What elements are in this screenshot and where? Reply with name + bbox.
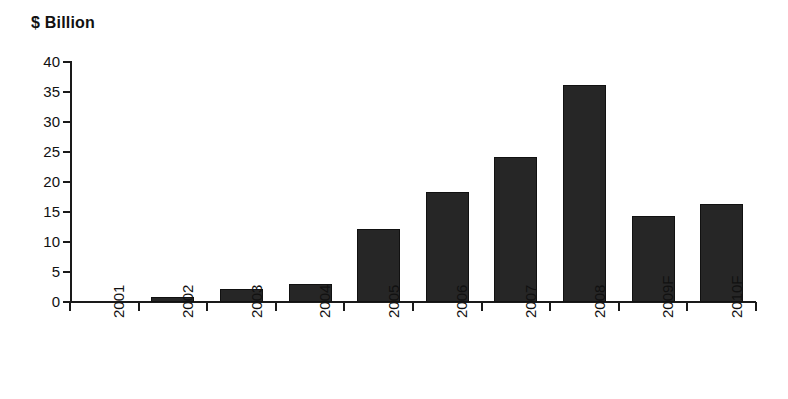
y-axis-tick-label-wrap: 0: [22, 294, 60, 309]
x-axis-tick: [275, 302, 277, 311]
x-axis-tick: [69, 302, 71, 311]
y-axis-tick-label-wrap: 5: [22, 264, 60, 279]
y-axis-tick-label: 5: [26, 264, 60, 279]
y-axis-tick: [63, 241, 71, 243]
bar: [494, 157, 537, 302]
x-axis-label: 2004: [317, 285, 332, 318]
x-axis-label: 2009F: [660, 275, 675, 318]
y-axis-tick: [63, 91, 71, 93]
y-axis-tick: [63, 61, 71, 63]
y-axis-tick-label-wrap: 30: [22, 114, 60, 129]
y-axis-tick-label: 35: [26, 84, 60, 99]
x-axis-tick: [481, 302, 483, 311]
y-axis-tick-label: 30: [26, 114, 60, 129]
y-axis-tick: [63, 121, 71, 123]
y-axis-tick: [63, 181, 71, 183]
x-axis-label: 2005: [386, 285, 401, 318]
x-axis-tick: [138, 302, 140, 311]
y-axis-tick: [63, 211, 71, 213]
y-axis-tick-label: 25: [26, 144, 60, 159]
y-axis-tick-label-wrap: 35: [22, 84, 60, 99]
y-axis-tick: [63, 151, 71, 153]
x-axis-tick: [755, 302, 757, 311]
x-axis-label: 2003: [249, 285, 264, 318]
y-axis-tick-label: 10: [26, 234, 60, 249]
y-axis-tick-label-wrap: 10: [22, 234, 60, 249]
y-axis-tick-label-wrap: 15: [22, 204, 60, 219]
y-axis-tick-label: 40: [26, 54, 60, 69]
x-axis-label: 2002: [180, 285, 195, 318]
y-axis-tick-label: 15: [26, 204, 60, 219]
x-axis-label: 2010F: [729, 275, 744, 318]
x-axis-label: 2001: [111, 285, 126, 318]
x-axis-tick: [412, 302, 414, 311]
y-axis-tick-label: 20: [26, 174, 60, 189]
x-axis-tick: [686, 302, 688, 311]
x-axis-label: 2007: [523, 285, 538, 318]
y-axis-tick-label-wrap: 20: [22, 174, 60, 189]
x-axis-tick: [343, 302, 345, 311]
x-axis-tick: [618, 302, 620, 311]
x-axis-label: 2006: [454, 285, 469, 318]
x-axis-tick: [206, 302, 208, 311]
y-axis-tick-label-wrap: 25: [22, 144, 60, 159]
x-axis-tick: [549, 302, 551, 311]
y-axis-tick-label-wrap: 40: [22, 54, 60, 69]
x-axis-label: 2008: [592, 285, 607, 318]
bar: [563, 85, 606, 302]
y-axis-tick-label: 0: [26, 294, 60, 309]
plot-area: 4035302520151050 20012002200320042005200…: [0, 0, 788, 399]
y-axis-tick: [63, 271, 71, 273]
bar-chart: $ Billion 4035302520151050 2001200220032…: [0, 0, 788, 399]
